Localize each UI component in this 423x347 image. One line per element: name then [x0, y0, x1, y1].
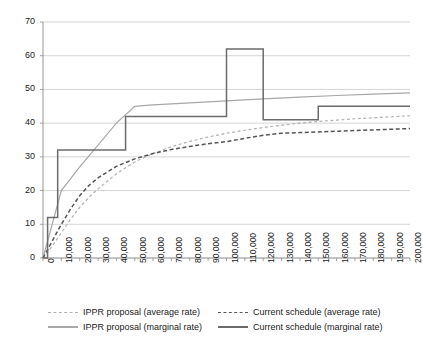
y-axis-label: 0	[9, 253, 35, 262]
series-line-4	[43, 49, 410, 258]
x-axis-label: 160,000	[341, 232, 350, 263]
y-axis-label: 10	[9, 219, 35, 228]
x-axis-label: 80,000	[194, 237, 203, 263]
legend-label: IPPR proposal (average rate)	[83, 307, 200, 317]
y-axis-label: 70	[9, 17, 35, 26]
legend-label: Current schedule (marginal rate)	[253, 322, 383, 332]
legend-item: Current schedule (average rate)	[218, 307, 381, 317]
legend-item: IPPR proposal (average rate)	[48, 307, 200, 317]
y-axis-label: 50	[9, 84, 35, 93]
y-axis-label: 60	[9, 51, 35, 60]
x-axis-label: 140,000	[304, 232, 313, 263]
series-line-1	[43, 116, 410, 258]
x-axis-label: 100,000	[231, 232, 240, 263]
x-axis-label: 200,000	[414, 232, 423, 263]
x-axis-label: 40,000	[120, 237, 129, 263]
x-axis-label: 30,000	[102, 237, 111, 263]
x-axis-label: 70,000	[175, 237, 184, 263]
x-axis-label: 90,000	[212, 237, 221, 263]
x-axis-label: 120,000	[267, 232, 276, 263]
legend-swatch-icon	[48, 312, 78, 313]
legend-item: Current schedule (marginal rate)	[218, 322, 383, 332]
x-axis-label: 150,000	[322, 232, 331, 263]
x-axis-label: 180,000	[377, 232, 386, 263]
legend-swatch-icon	[218, 312, 248, 313]
x-axis-label: 190,000	[396, 232, 405, 263]
x-axis-label: 170,000	[359, 232, 368, 263]
x-axis-label: 130,000	[286, 232, 295, 263]
series-line-3	[43, 129, 410, 258]
legend-swatch-icon	[218, 326, 248, 328]
legend-swatch-icon	[48, 326, 78, 327]
y-axis-label: 40	[9, 118, 35, 127]
x-axis-label: 20,000	[84, 237, 93, 263]
x-axis-label: 50,000	[139, 237, 148, 263]
series-line-2	[43, 93, 410, 258]
legend-label: IPPR proposal (marginal rate)	[83, 322, 202, 332]
legend-item: IPPR proposal (marginal rate)	[48, 322, 202, 332]
x-axis-label: 110,000	[249, 233, 258, 263]
x-axis-label: 60,000	[157, 237, 166, 263]
legend-label: Current schedule (average rate)	[253, 307, 381, 317]
y-axis-label: 30	[9, 152, 35, 161]
y-axis-label: 20	[9, 186, 35, 195]
x-axis-label: 10,000	[65, 237, 74, 263]
x-axis-label: 0	[47, 258, 56, 263]
